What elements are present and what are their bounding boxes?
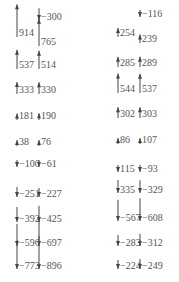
vector-value-label: −596 — [19, 238, 40, 248]
vector-value-label: 303 — [142, 109, 157, 119]
vector-value-label: 254 — [120, 28, 135, 38]
vector-value-label: −697 — [41, 238, 62, 248]
vector-value-label: −100 — [19, 159, 40, 169]
vector-value-label: 285 — [120, 58, 135, 68]
vector-value-label: 289 — [142, 58, 157, 68]
vector-value-label: −251 — [19, 189, 40, 199]
vector-value-label: −392 — [19, 214, 40, 224]
vector-value-label: 765 — [41, 37, 56, 47]
vector-value-label: 239 — [142, 34, 157, 44]
vector-value-label: −227 — [41, 189, 62, 199]
vector-value-label: 38 — [19, 137, 29, 147]
vector-value-label: 537 — [142, 84, 157, 94]
vector-value-label: 190 — [41, 111, 56, 121]
vector-value-label: −116 — [142, 9, 162, 19]
vector-value-label: 544 — [120, 84, 135, 94]
vector-value-label: 86 — [120, 135, 130, 145]
vector-value-label: 115 — [120, 164, 135, 174]
vector-value-label: −93 — [142, 164, 158, 174]
vector-value-label: −608 — [142, 213, 163, 223]
vector-value-label: 302 — [120, 109, 135, 119]
vector-value-label: 514 — [41, 60, 56, 70]
vector-value-label: 333 — [19, 85, 34, 95]
vector-value-label: −61 — [41, 159, 57, 169]
vector-value-label: 335 — [120, 185, 135, 195]
vector-value-label: −773 — [19, 261, 40, 271]
vector-value-label: −329 — [142, 185, 163, 195]
vector-diagram: −30091453733318138−100−251−392−596−77376… — [0, 0, 179, 282]
vector-value-label: 330 — [41, 85, 56, 95]
vector-value-label: 76 — [41, 137, 51, 147]
vector-value-label: −567 — [120, 213, 141, 223]
vector-value-label: −896 — [41, 261, 62, 271]
vector-value-label: −300 — [41, 12, 62, 22]
vector-value-label: 107 — [142, 135, 157, 145]
vector-value-label: −224 — [120, 261, 141, 271]
vector-value-label: −312 — [142, 238, 163, 248]
vector-value-label: −425 — [41, 214, 62, 224]
vector-value-label: 181 — [19, 111, 34, 121]
vector-value-label: 537 — [19, 60, 34, 70]
vector-value-label: −249 — [142, 261, 163, 271]
vector-value-label: −283 — [120, 238, 141, 248]
vector-value-label: 914 — [19, 28, 34, 38]
